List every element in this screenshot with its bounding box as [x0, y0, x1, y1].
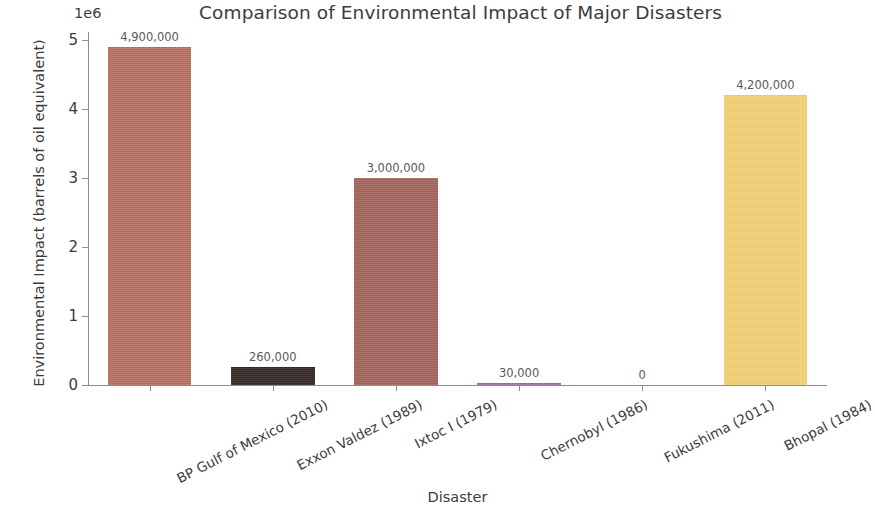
bar	[354, 178, 438, 385]
y-axis-tick-label: 4	[52, 100, 78, 118]
x-axis-tick	[150, 385, 151, 391]
bar	[231, 367, 315, 385]
x-axis-tick-label: Fukushima (2011)	[661, 396, 777, 465]
bar-texture	[108, 47, 192, 385]
y-axis-tick	[82, 316, 89, 317]
y-axis-tick-label: 1	[52, 307, 78, 325]
y-axis-label: Environmental Impact (barrels of oil equ…	[31, 33, 47, 393]
bar-value-label: 30,000	[499, 366, 539, 380]
bar-texture	[231, 367, 315, 385]
chart-title: Comparison of Environmental Impact of Ma…	[88, 2, 833, 23]
x-axis-tick	[765, 385, 766, 391]
y-axis-tick-label: 5	[52, 31, 78, 49]
x-axis-line	[88, 385, 827, 386]
x-axis-tick-label: BP Gulf of Mexico (2010)	[174, 396, 330, 486]
y-axis-tick-label: 2	[52, 238, 78, 256]
x-axis-tick	[396, 385, 397, 391]
y-axis-tick	[82, 178, 89, 179]
bar-value-label: 3,000,000	[367, 161, 426, 175]
y-axis-tick	[82, 40, 89, 41]
x-axis-tick	[519, 385, 520, 391]
y-axis-tick	[82, 385, 89, 386]
y-axis-tick	[82, 247, 89, 248]
x-axis-label: Disaster	[88, 489, 827, 505]
bar-texture	[354, 178, 438, 385]
bar-value-label: 4,900,000	[120, 30, 179, 44]
x-axis-tick-label: Ixtoc I (1979)	[412, 396, 500, 451]
y-axis-tick	[82, 109, 89, 110]
x-axis-tick	[642, 385, 643, 391]
bar-value-label: 0	[639, 368, 646, 382]
x-axis-tick	[273, 385, 274, 391]
x-axis-tick-label: Chernobyl (1986)	[538, 396, 650, 464]
bar	[108, 47, 192, 385]
bar-texture	[724, 95, 808, 385]
bar-value-label: 260,000	[249, 350, 297, 364]
y-axis-offset-text: 1e6	[74, 5, 101, 21]
y-axis-line	[88, 32, 89, 385]
y-axis-tick-label: 3	[52, 169, 78, 187]
x-axis-tick-label: Bhopal (1984)	[782, 396, 875, 454]
y-axis-tick-label: 0	[52, 376, 78, 394]
bar	[724, 95, 808, 385]
bar-value-label: 4,200,000	[736, 78, 795, 92]
